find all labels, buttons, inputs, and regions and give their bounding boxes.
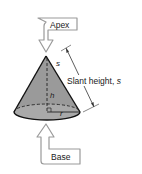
arrowhead-top-icon: [66, 48, 69, 53]
slant-height-label: Slant height, s: [67, 76, 122, 86]
slant-extension-bottom: [83, 104, 99, 112]
radius-label: r: [60, 109, 63, 118]
cone: s h r: [14, 56, 80, 120]
apex-label: Apex: [50, 20, 70, 30]
arrowhead-bottom-icon: [91, 102, 94, 107]
base-label: Base: [51, 152, 71, 162]
slant-side-label: s: [56, 59, 60, 68]
base-callout: Base: [37, 124, 80, 164]
height-label: h: [50, 91, 55, 100]
cone-diagram: Apex s h r Slant height, s Base: [0, 0, 142, 174]
apex-callout: Apex: [38, 18, 77, 52]
